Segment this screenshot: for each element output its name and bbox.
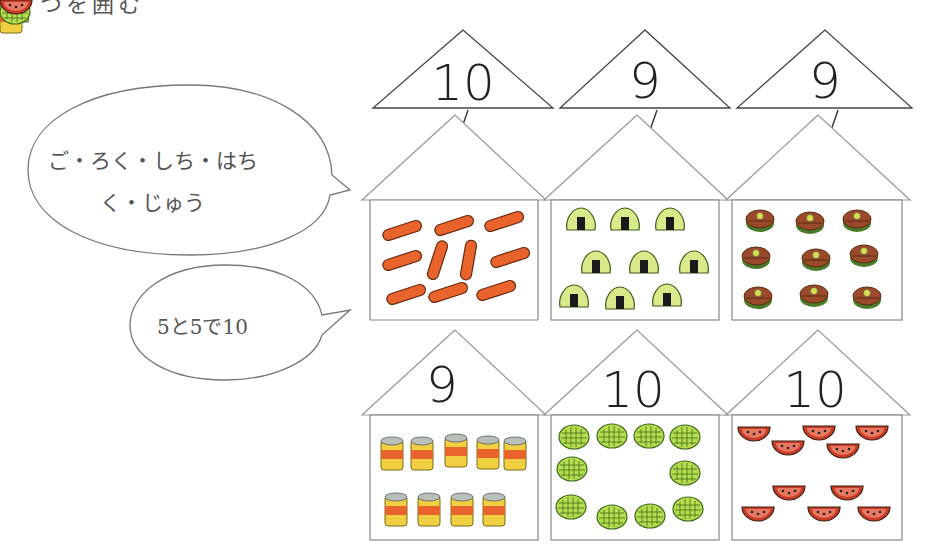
house-number: 9 [426, 356, 458, 414]
house-number: 10 [783, 361, 847, 419]
svg-text:10: 10 [431, 54, 495, 112]
house-roof [544, 115, 728, 200]
bubble-line-1: ご・ろく・しち・はち [48, 149, 258, 173]
bubble-text: 5と5で10 [157, 315, 248, 339]
svg-text:9: 9 [809, 52, 841, 110]
house-roof [726, 115, 910, 200]
number-triangle-2: 9 [560, 30, 730, 110]
number-triangle-1: 10 [373, 30, 553, 112]
number-triangle-3: 9 [737, 30, 912, 110]
svg-text:9: 9 [629, 52, 661, 110]
speech-bubble-counting: ご・ろく・しち・はち く・じゅう [28, 85, 350, 255]
bubble-line-2: く・じゅう [100, 191, 205, 215]
house-number: 10 [601, 361, 665, 419]
speech-bubble-five-and-five: 5と5で10 [130, 265, 350, 380]
worksheet-canvas: ご・ろく・しち・はち く・じゅう 5と5で10 10 9 9 [0, 0, 934, 548]
house-roof [362, 115, 546, 200]
